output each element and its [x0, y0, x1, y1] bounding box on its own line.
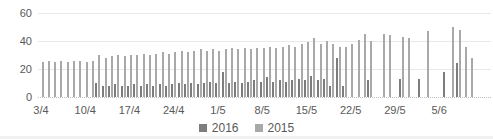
bar-2016-15/4	[114, 84, 116, 97]
bar-2015-16/5	[313, 38, 315, 97]
bar-2015-4/4	[48, 61, 50, 97]
bar-2016-30/4	[209, 82, 211, 97]
bar-2015-14/4	[111, 56, 113, 97]
bar-2015-23/4	[168, 54, 170, 97]
gridline-y40	[38, 41, 491, 42]
bar-2015-19/5	[332, 44, 334, 97]
bar-2015-31/5	[408, 38, 410, 97]
y-axis-tick-20: 20	[6, 64, 32, 75]
bar-2015-19/4	[143, 54, 145, 97]
bar-2016-25/5	[367, 80, 369, 97]
bar-2015-20/5	[339, 47, 341, 97]
bar-2015-22/4	[162, 52, 164, 97]
x-axis-tick-8/5: 8/5	[244, 105, 280, 116]
x-axis-tick-3/4: 3/4	[23, 105, 59, 116]
bar-2016-21/5	[342, 86, 344, 97]
bar-2016-29/4	[203, 83, 205, 97]
bar-2016-4/5	[234, 82, 236, 97]
bar-2015-24/5	[364, 34, 366, 97]
legend-item-2015: 2015	[255, 122, 295, 134]
bar-2015-16/4	[124, 56, 126, 97]
x-axis-tick-5/6: 5/6	[421, 105, 457, 116]
bar-2015-23/5	[358, 40, 360, 97]
bar-2016-23/4	[165, 86, 167, 97]
x-axis-line	[38, 97, 491, 98]
bar-2016-19/4	[140, 86, 142, 97]
bar-2016-18/4	[133, 84, 135, 97]
bar-2015-1/5	[218, 51, 220, 97]
bar-2016-18/5	[323, 79, 325, 97]
bar-2016-13/5	[291, 80, 293, 97]
bar-2015-7/6	[452, 27, 454, 97]
bar-2016-6/6	[443, 72, 445, 97]
bar-2016-17/5	[317, 80, 319, 97]
bar-2015-25/5	[370, 41, 372, 97]
chart-screenshot: 02040603/410/417/424/41/58/515/522/529/5…	[0, 0, 493, 139]
bar-2015-10/4	[86, 62, 88, 97]
y-axis-tick-60: 60	[6, 8, 32, 19]
bar-2016-16/4	[121, 86, 123, 97]
bar-2016-5/5	[241, 83, 243, 97]
bar-2015-9/6	[465, 47, 467, 97]
bar-2016-2/6	[418, 79, 420, 97]
bar-2016-2/5	[222, 72, 224, 97]
bar-2015-13/5	[294, 47, 296, 97]
bar-2016-21/4	[152, 86, 154, 97]
bar-2015-14/5	[301, 44, 303, 97]
x-axis-tick-17/4: 17/4	[111, 105, 147, 116]
bar-2016-8/5	[260, 82, 262, 97]
bar-2016-26/4	[184, 84, 186, 97]
bar-2016-22/4	[159, 84, 161, 97]
bar-2015-7/5	[256, 48, 258, 97]
bar-2016-12/5	[285, 82, 287, 97]
bar-2015-17/5	[320, 44, 322, 97]
bar-2015-20/4	[149, 55, 151, 97]
bar-2015-6/4	[60, 61, 62, 97]
bar-2016-6/5	[247, 82, 249, 97]
bar-2015-12/4	[98, 55, 100, 97]
bar-2015-8/4	[73, 61, 75, 97]
bar-2016-15/5	[304, 80, 306, 97]
bar-2015-9/5	[269, 47, 271, 97]
bar-2015-3/5	[231, 48, 233, 97]
bar-2015-28/4	[200, 49, 202, 97]
bar-2015-18/4	[136, 55, 138, 97]
bar-2016-30/5	[399, 79, 401, 97]
bar-2016-12/4	[95, 83, 97, 97]
bar-2015-30/4	[212, 49, 214, 97]
bar-2015-8/6	[459, 30, 461, 97]
x-axis-tick-29/5: 29/5	[377, 105, 413, 116]
x-axis-tick-10/4: 10/4	[67, 105, 103, 116]
bar-2016-10/5	[272, 82, 274, 97]
legend-label-2015: 2015	[268, 122, 295, 134]
bar-2015-3/6	[427, 31, 429, 97]
bar-2016-25/4	[178, 83, 180, 97]
bar-2015-12/5	[288, 45, 290, 97]
x-axis-tick-1/5: 1/5	[200, 105, 236, 116]
bar-2015-3/4	[42, 62, 44, 97]
bar-2015-5/4	[54, 62, 56, 97]
bar-2016-20/5	[336, 58, 338, 97]
chart-legend: 20162015	[0, 120, 493, 136]
bar-2015-2/5	[225, 49, 227, 97]
legend-label-2016: 2016	[212, 122, 239, 134]
bar-2016-16/5	[310, 76, 312, 97]
bar-2015-28/5	[389, 35, 391, 97]
bar-2015-7/4	[67, 62, 69, 97]
legend-item-2016: 2016	[199, 122, 239, 134]
bar-2015-27/5	[383, 34, 385, 97]
bar-2015-10/5	[275, 48, 277, 97]
bar-2016-19/5	[329, 86, 331, 97]
y-axis-tick-0: 0	[6, 92, 32, 103]
bar-2015-9/4	[79, 61, 81, 97]
x-axis-tick-15/5: 15/5	[288, 105, 324, 116]
y-axis-tick-40: 40	[6, 36, 32, 47]
bar-2015-13/4	[105, 58, 107, 97]
bar-2016-13/4	[102, 86, 104, 97]
bar-2015-11/5	[282, 47, 284, 97]
bar-2015-4/5	[237, 49, 239, 97]
bar-2015-18/5	[326, 41, 328, 97]
bar-2016-7/5	[253, 80, 255, 97]
bar-2016-17/4	[127, 86, 129, 97]
bar-2015-11/4	[92, 61, 94, 97]
